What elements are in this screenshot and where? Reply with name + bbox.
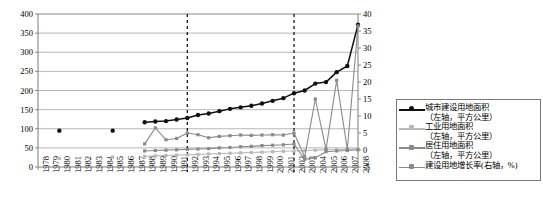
legend-label-text: 建设用地增长率(右轴，%) [425, 161, 518, 170]
legend-marker-line-icon [399, 142, 425, 153]
legend-label-sub: （左轴，平方公里） [425, 113, 497, 122]
legend-label-text: 工业用地面积 [425, 122, 473, 131]
legend-marker-line-icon [399, 162, 425, 173]
legend-marker-line-icon [399, 123, 425, 134]
chart-container: 050100150200250300350400 -50510152025303… [0, 0, 543, 211]
legend-item-3: 建设用地增长率(右轴，%) [399, 161, 538, 173]
legend-label: 居住用地面积 （左轴，平方公里） [425, 141, 497, 160]
legend-label-text: 城市建设用地面积 [425, 103, 489, 112]
legend-item-1: 工业用地面积 （左轴，平方公里） [399, 122, 538, 141]
legend-label: 城市建设用地面积 （左轴，平方公里） [425, 103, 497, 122]
legend-label-sub: （左轴，平方公里） [425, 132, 497, 141]
legend-label: 建设用地增长率(右轴，%) [425, 161, 518, 171]
legend-marker-line-icon [399, 104, 425, 115]
legend-item-2: 居住用地面积 （左轴，平方公里） [399, 141, 538, 160]
legend-item-0: 城市建设用地面积 （左轴，平方公里） [399, 103, 538, 122]
legend: 城市建设用地面积 （左轴，平方公里） 工业用地面积 （左轴，平方公里） 居住用地… [396, 99, 541, 181]
legend-label: 工业用地面积 （左轴，平方公里） [425, 122, 497, 141]
legend-label-sub: （左轴，平方公里） [425, 151, 497, 160]
legend-label-text: 居住用地面积 [425, 141, 473, 150]
